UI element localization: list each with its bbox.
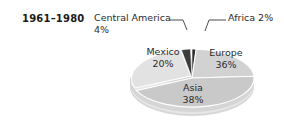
africa-name-value: Africa 2% <box>228 12 273 23</box>
callout-label-central-america: Central America 4% <box>94 12 171 35</box>
mexico-value: 20% <box>152 58 173 69</box>
mexico-name: Mexico <box>146 46 179 57</box>
asia-value: 38% <box>182 94 203 105</box>
pie-chart-figure: 1961–1980 Central America 4% <box>0 0 284 138</box>
central-america-name: Central America <box>94 12 171 23</box>
europe-name: Europe <box>209 47 242 58</box>
leader-line-africa <box>205 20 226 31</box>
slice-label-europe: Europe 36% <box>204 47 248 70</box>
europe-value: 36% <box>215 59 236 70</box>
leader-line-central-america <box>170 20 187 30</box>
central-america-value: 4% <box>94 24 109 35</box>
slice-label-asia: Asia 38% <box>176 82 210 105</box>
leader-lines <box>170 20 226 31</box>
slice-label-mexico: Mexico 20% <box>139 46 187 69</box>
asia-name: Asia <box>183 82 203 93</box>
callout-label-africa: Africa 2% <box>228 12 273 24</box>
